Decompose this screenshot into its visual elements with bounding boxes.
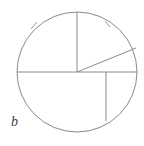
circle-partition-diagram — [0, 0, 144, 146]
slanted-upper-right-radius-line — [77, 48, 136, 72]
figure-container: b — [0, 0, 144, 146]
figure-label: b — [11, 114, 18, 130]
